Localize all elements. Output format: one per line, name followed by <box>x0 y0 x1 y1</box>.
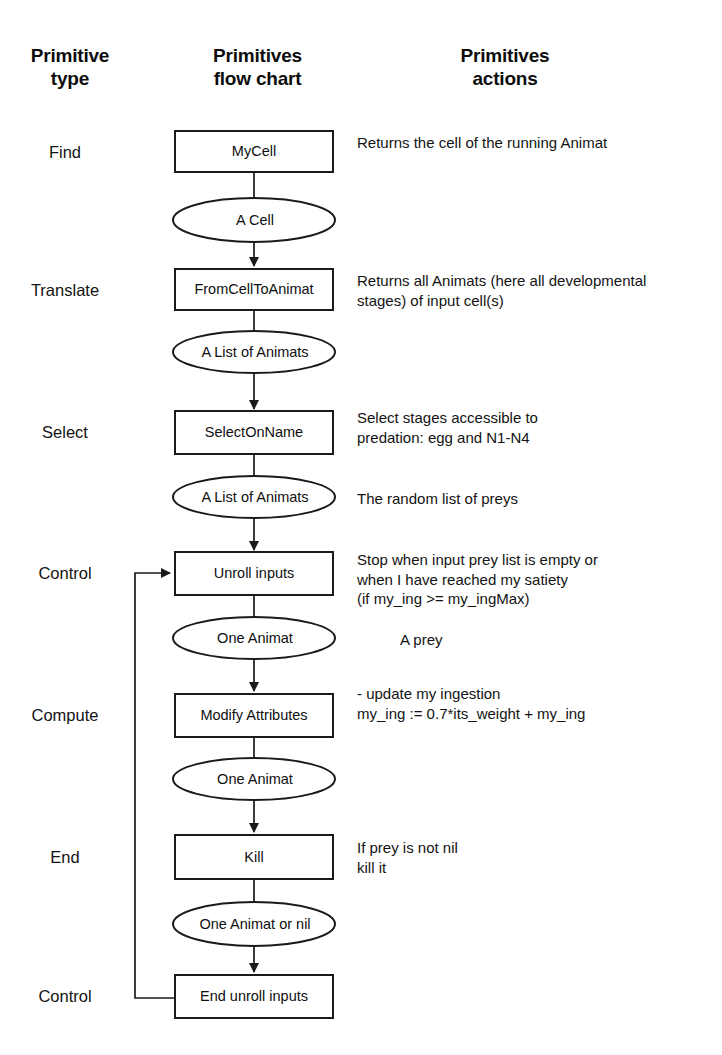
node-label-one-animat-1: One Animat <box>174 630 336 647</box>
type-label-end: End <box>0 847 130 867</box>
node-label-a-cell: A Cell <box>174 212 336 229</box>
node-label-selectonname: SelectOnName <box>175 424 333 441</box>
column-header-primitive-type: Primitivetype <box>0 44 140 90</box>
type-label-control-2: Control <box>0 986 130 1006</box>
node-label-a-list-of-animats-2: A List of Animats <box>174 489 336 506</box>
node-label-one-animat-2: One Animat <box>174 771 336 788</box>
node-label-kill: Kill <box>175 849 333 866</box>
type-label-compute: Compute <box>0 705 130 725</box>
type-label-translate: Translate <box>0 280 130 300</box>
node-label-unroll-inputs: Unroll inputs <box>175 565 333 582</box>
action-text-compute: - update my ingestion my_ing := 0.7*its_… <box>357 684 719 723</box>
column-header-primitives-flow-chart: Primitivesflow chart <box>170 44 345 90</box>
action-text-translate: Returns all Animats (here all developmen… <box>357 271 719 310</box>
node-label-modify-attributes: Modify Attributes <box>175 707 333 724</box>
node-label-mycell: MyCell <box>175 143 333 160</box>
action-text-find: Returns the cell of the running Animat <box>357 133 719 153</box>
column-header-primitives-actions: Primitivesactions <box>380 44 630 90</box>
node-label-end-unroll-inputs: End unroll inputs <box>175 988 333 1005</box>
type-label-find: Find <box>0 142 130 162</box>
node-label-one-animat-or-nil: One Animat or nil <box>174 916 336 933</box>
action-text-end: If prey is not nil kill it <box>357 838 719 877</box>
action-text-control-output: A prey <box>400 630 722 650</box>
action-text-select-output: The random list of preys <box>357 489 719 509</box>
flowchart-figure: Primitivetype Primitivesflow chart Primi… <box>0 0 722 1055</box>
node-label-a-list-of-animats-1: A List of Animats <box>174 344 336 361</box>
type-label-select: Select <box>0 422 130 442</box>
node-label-fromcelltoanimat: FromCellToAnimat <box>175 281 333 298</box>
type-label-control-1: Control <box>0 563 130 583</box>
connector-loop-back-control <box>135 573 175 998</box>
action-text-control: Stop when input prey list is empty or wh… <box>357 550 719 609</box>
action-text-select: Select stages accessible to predation: e… <box>357 408 719 447</box>
